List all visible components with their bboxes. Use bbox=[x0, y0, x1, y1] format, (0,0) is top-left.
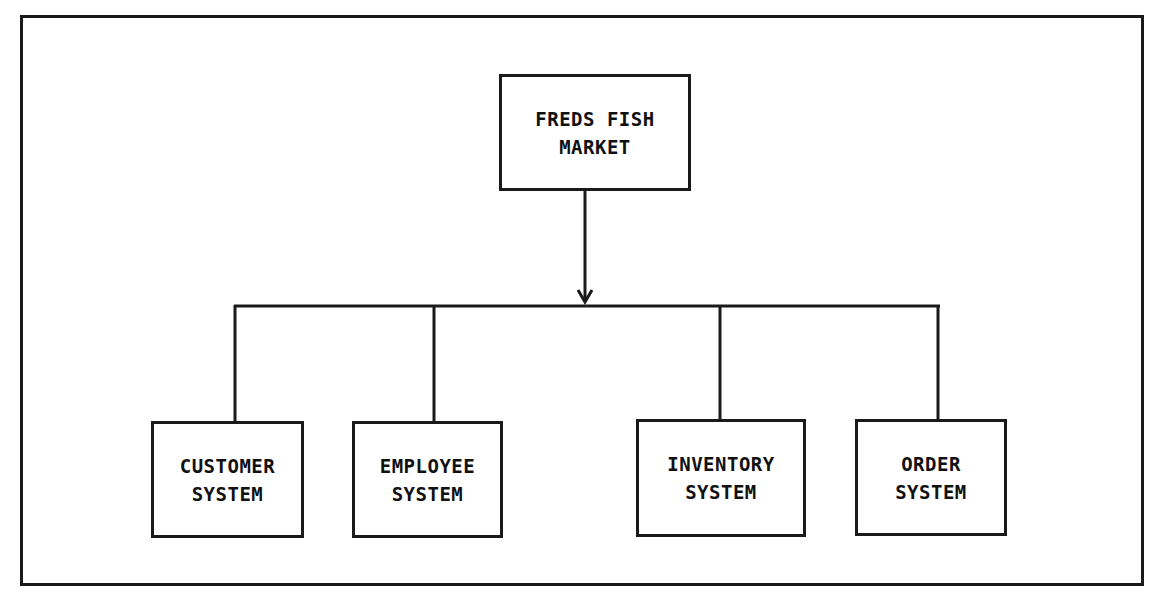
node-label: SYSTEM bbox=[192, 480, 264, 508]
node-customer-system: CUSTOMER SYSTEM bbox=[151, 421, 304, 538]
node-label: INVENTORY bbox=[667, 450, 774, 478]
node-employee-system: EMPLOYEE SYSTEM bbox=[352, 421, 503, 538]
node-label: SYSTEM bbox=[895, 478, 967, 506]
node-label: EMPLOYEE bbox=[380, 452, 476, 480]
node-freds-fish-market: FREDS FISH MARKET bbox=[499, 74, 691, 191]
node-label: SYSTEM bbox=[392, 480, 464, 508]
node-label: SYSTEM bbox=[685, 478, 757, 506]
node-inventory-system: INVENTORY SYSTEM bbox=[636, 419, 806, 537]
node-label: ORDER bbox=[901, 450, 961, 478]
node-label: FREDS FISH bbox=[535, 105, 654, 133]
node-label: MARKET bbox=[559, 133, 631, 161]
node-order-system: ORDER SYSTEM bbox=[855, 419, 1007, 536]
node-label: CUSTOMER bbox=[180, 452, 276, 480]
